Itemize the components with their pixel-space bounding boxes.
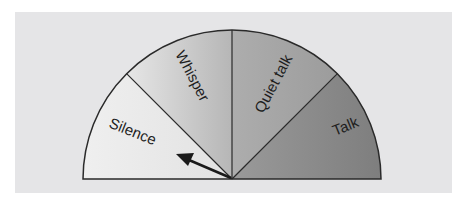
volume-gauge: Silence Whisper Quiet talk Talk	[0, 0, 473, 203]
